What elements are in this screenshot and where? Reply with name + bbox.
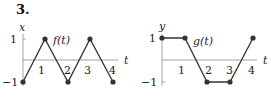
function-label: g(t) (193, 35, 213, 48)
y-axis-label: x (19, 21, 26, 34)
data-point (159, 35, 164, 40)
x-tick-label-1: 1 (38, 64, 45, 77)
data-point (182, 35, 187, 40)
data-point (227, 79, 232, 84)
data-point (42, 36, 47, 41)
x-axis-label: t (124, 54, 129, 67)
x-tick-label-3: 3 (226, 64, 233, 77)
x-tick-label-2: 2 (64, 64, 71, 77)
data-point (204, 79, 209, 84)
data-point (20, 79, 25, 84)
x-tick-label-4: 4 (248, 64, 255, 77)
x-tick-label-1: 1 (178, 64, 185, 77)
chart-g: y t 1 −1 1 2 3 4 g(t) (141, 20, 268, 89)
function-label: f(t) (52, 34, 70, 47)
y-tick-label-top: 1 (149, 32, 156, 45)
data-point (87, 36, 92, 41)
x-tick-label-4: 4 (109, 64, 116, 77)
data-point (110, 79, 115, 84)
data-point (250, 35, 255, 40)
x-axis-label: t (263, 54, 268, 67)
y-tick-label-top: 1 (10, 33, 17, 46)
charts-canvas: x t 1 −1 1 2 3 4 f(t) y t 1 −1 1 2 3 4 g… (0, 0, 271, 98)
chart-f: x t 1 −1 1 2 3 4 f(t) (2, 21, 129, 89)
y-tick-label-bottom: −1 (2, 76, 18, 89)
y-axis-label: y (158, 20, 166, 33)
x-tick-label-2: 2 (205, 64, 212, 77)
x-tick-label-3: 3 (84, 64, 91, 77)
y-tick-label-bottom: −1 (141, 76, 157, 89)
data-point (65, 79, 70, 84)
